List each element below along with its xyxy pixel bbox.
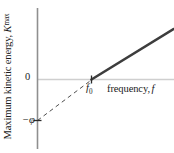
x-axis-title: frequency,f (107, 84, 154, 95)
y-axis-subscript: max (3, 14, 11, 26)
y-tick-label-zero: 0 (25, 72, 30, 83)
photoelectric-effect-figure: Maximum kinetic energy,Kmax 0 −φ f0 freq… (0, 0, 174, 153)
y-axis-title-text: Maximum kinetic energy, (2, 35, 13, 139)
y-axis-title: Maximum kinetic energy,Kmax (0, 0, 14, 153)
work-function-value: −φ (22, 114, 35, 125)
y-tick-label-work-function: −φ (22, 115, 35, 126)
y-axis-symbol: K (2, 26, 13, 33)
x-tick-label-threshold-frequency: f0 (86, 83, 93, 96)
extrapolation-dashed-line (38, 80, 93, 121)
data-line (92, 29, 174, 80)
x-axis-title-text: frequency, (107, 83, 150, 94)
threshold-frequency-subscript: 0 (89, 88, 93, 96)
x-axis-symbol: f (151, 83, 154, 94)
